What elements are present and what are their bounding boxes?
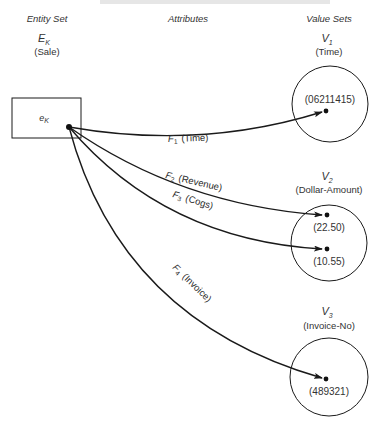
value-set-v3: V3 (Invoice-No) (489321): [290, 305, 368, 416]
value-set-v3-name: (Invoice-No): [303, 320, 355, 331]
entity-set-label: EK (Sale): [34, 32, 59, 57]
value-set-v1: V1 (Time) (06211415): [292, 32, 368, 142]
value-10-55: (10.55): [313, 256, 345, 267]
figure-caption: [100, 0, 330, 4]
header-entity-set: Entity Set: [27, 13, 68, 24]
attribute-f4-label: F4(Invoice): [170, 262, 214, 305]
svg-text:V2: V2: [321, 170, 332, 184]
value-22-50: (22.50): [313, 222, 345, 233]
attribute-f3-label: F3(Cogs): [171, 188, 215, 212]
svg-text:V1: V1: [321, 32, 332, 46]
svg-text:EK: EK: [38, 32, 50, 46]
attribute-mapping-diagram: Entity Set Attributes Value Sets EK (Sal…: [0, 0, 371, 421]
value-point: [324, 377, 329, 382]
value-set-v2-name: (Dollar-Amount): [295, 184, 362, 195]
value-set-v2: V2 (Dollar-Amount) (22.50) (10.55): [291, 170, 367, 281]
value-set-v1-name: (Time): [315, 46, 342, 57]
mapping-arrows: [69, 112, 322, 378]
entity-point: [66, 124, 72, 130]
value-point: [324, 109, 329, 114]
value-06211415: (06211415): [305, 94, 355, 105]
value-point: [325, 247, 330, 252]
svg-text:eK: eK: [39, 113, 49, 124]
value-489321: (489321): [309, 386, 349, 397]
header-value-sets: Value Sets: [306, 13, 352, 24]
entity-set-name: (Sale): [34, 46, 59, 57]
header-attributes: Attributes: [167, 13, 208, 24]
attribute-f1-label: F1(Time): [168, 132, 209, 145]
value-point: [325, 213, 330, 218]
svg-text:V3: V3: [321, 305, 332, 319]
arrow-f3: [69, 127, 322, 249]
